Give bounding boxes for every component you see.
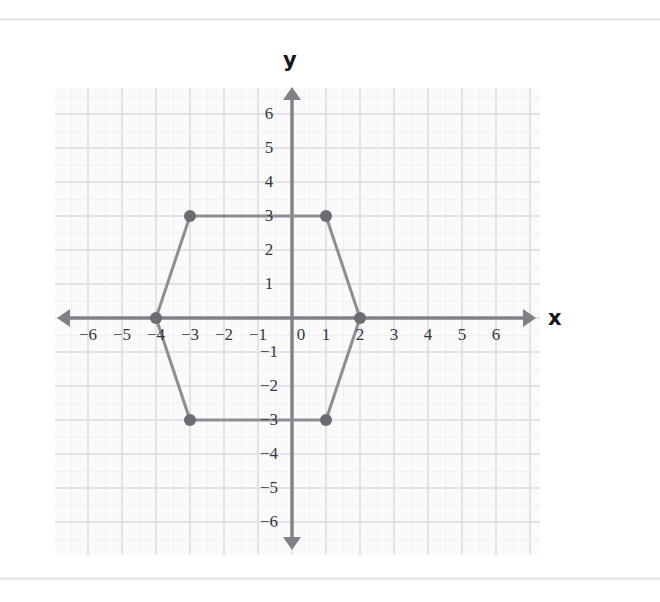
x-tick-neg5: −5 [109, 326, 135, 343]
x-tick-neg2: −2 [211, 326, 237, 343]
tick-labels: −6−5−4−3−2−10123456654321−1−2−3−4−5−6 [0, 0, 660, 602]
x-tick-1: 1 [313, 326, 339, 343]
x-tick-neg1: −1 [245, 326, 271, 343]
x-tick-origin: 0 [288, 326, 314, 343]
y-tick-neg4: −4 [256, 445, 282, 462]
x-tick-6: 6 [483, 326, 509, 343]
x-tick-neg4: −4 [143, 326, 169, 343]
y-tick-1: 1 [256, 275, 282, 292]
x-tick-3: 3 [381, 326, 407, 343]
x-tick-neg6: −6 [75, 326, 101, 343]
worksheet-page: (−4, 0)(−3, 3)(1, 3)(2, 0)(1, −3)(−3, −3… [0, 0, 660, 602]
y-tick-neg2: −2 [256, 377, 282, 394]
x-tick-2: 2 [347, 326, 373, 343]
y-tick-neg6: −6 [256, 513, 282, 530]
coordinate-plane: (−4, 0)(−3, 3)(1, 3)(2, 0)(1, −3)(−3, −3… [0, 0, 660, 602]
y-tick-2: 2 [256, 241, 282, 258]
y-tick-neg5: −5 [256, 479, 282, 496]
y-tick-5: 5 [256, 139, 282, 156]
y-tick-neg1: −1 [256, 343, 282, 360]
y-tick-neg3: −3 [256, 411, 282, 428]
y-tick-3: 3 [256, 207, 282, 224]
x-tick-5: 5 [449, 326, 475, 343]
x-tick-4: 4 [415, 326, 441, 343]
x-tick-neg3: −3 [177, 326, 203, 343]
y-tick-4: 4 [256, 173, 282, 190]
y-tick-6: 6 [256, 105, 282, 122]
